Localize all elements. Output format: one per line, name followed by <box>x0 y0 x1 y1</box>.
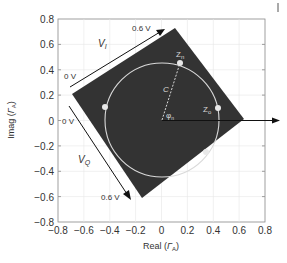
vq-end-label: 0.6 V <box>101 193 120 202</box>
svg-text:0.6: 0.6 <box>232 225 246 236</box>
x-tick-labels: −0.8 −0.6 −0.4 −0.2 0 0.2 0.4 0.6 0.8 <box>48 225 272 236</box>
x-axis-label: Real (ΓA) <box>143 241 179 252</box>
svg-text:0.2: 0.2 <box>40 90 54 101</box>
svg-text:0.8: 0.8 <box>258 225 272 236</box>
chart-figure: Zn Zo C φn 0 V 0.6 V VI 0 V 0.6 V VQ 0.8… <box>0 0 287 263</box>
svg-text:−0.8: −0.8 <box>48 225 68 236</box>
svg-text:0.6: 0.6 <box>40 39 54 50</box>
svg-text:0: 0 <box>159 225 165 236</box>
y-tick-labels: 0.8 0.6 0.4 0.2 0 −0.2 −0.4 −0.6 −0.8 <box>34 14 54 228</box>
arrowhead-icon <box>272 118 280 124</box>
vq-start-label: 0 V <box>62 117 75 126</box>
point-zo <box>215 105 221 111</box>
vi-end-label: 0.6 V <box>132 24 151 33</box>
vi-start-label: 0 V <box>64 72 77 81</box>
y-axis-label: Imag (ΓA) <box>6 101 17 139</box>
svg-text:−0.2: −0.2 <box>34 141 54 152</box>
point-left <box>102 104 108 110</box>
svg-text:0: 0 <box>48 116 54 127</box>
svg-text:−0.2: −0.2 <box>126 225 146 236</box>
svg-text:0.2: 0.2 <box>180 225 194 236</box>
svg-text:−0.4: −0.4 <box>100 225 120 236</box>
svg-text:0.4: 0.4 <box>206 225 220 236</box>
point-bottom <box>203 149 209 155</box>
label-c: C <box>163 85 169 94</box>
point-zn <box>177 60 183 66</box>
svg-text:0.4: 0.4 <box>40 65 54 76</box>
svg-text:0.8: 0.8 <box>40 14 54 25</box>
svg-text:−0.4: −0.4 <box>34 166 54 177</box>
svg-text:−0.6: −0.6 <box>34 192 54 203</box>
svg-text:−0.6: −0.6 <box>74 225 94 236</box>
